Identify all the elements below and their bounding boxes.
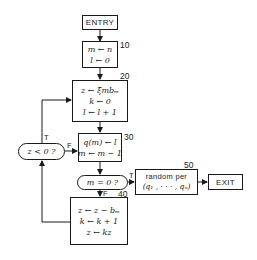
step-20-line-3: l ← l + 1 (83, 107, 117, 118)
exit-node: EXIT (208, 174, 243, 190)
step-10-line-2: l ← 0 (90, 55, 109, 66)
decision-m-true-label: T (129, 171, 134, 180)
decision-z-negative: z < 0 ? (18, 143, 65, 160)
decision-m-label: m = 0 ? (87, 177, 118, 188)
step-30-box: q(m) ← l m ← m − 1 (78, 133, 122, 162)
entry-node: ENTRY (82, 15, 118, 30)
step-20-line-2: k ← 0 (89, 96, 111, 107)
step-20-line-1: z ← ξmbₘ (81, 85, 119, 96)
step-40-line-2: k ← k + 1 (80, 216, 118, 227)
exit-label: EXIT (216, 178, 235, 187)
step-10-box: m ← n l ← 0 (82, 41, 118, 68)
decision-z-false-label: F (67, 141, 72, 150)
decision-m-zero: m = 0 ? (77, 175, 128, 190)
step-30-number: 30 (124, 132, 133, 142)
step-40-line-1: z ← z − bₘ (78, 205, 120, 216)
step-50-box: random per (q₁ , · · · , qₙ) (135, 169, 198, 195)
connector-lines (0, 0, 257, 260)
step-20-box: z ← ξmbₘ k ← 0 l ← l + 1 (72, 80, 128, 122)
step-30-line-1: q(m) ← l (83, 137, 116, 148)
decision-z-true-label: T (44, 133, 49, 142)
step-50-number: 50 (184, 160, 193, 170)
step-20-number: 20 (120, 71, 129, 81)
step-30-line-2: m ← m − 1 (78, 148, 122, 159)
step-50-line-2: (q₁ , · · · , qₙ) (143, 182, 191, 192)
step-40-box: z ← z − bₘ k ← k + 1 z ← kz (70, 197, 128, 245)
entry-label: ENTRY (86, 18, 114, 27)
step-10-line-1: m ← n (88, 44, 113, 55)
decision-z-label: z < 0 ? (28, 146, 56, 157)
step-50-line-1: random per (146, 172, 187, 182)
step-40-line-3: z ← kz (86, 227, 111, 238)
step-10-number: 10 (120, 40, 129, 50)
step-40-number: 40 (118, 189, 127, 199)
